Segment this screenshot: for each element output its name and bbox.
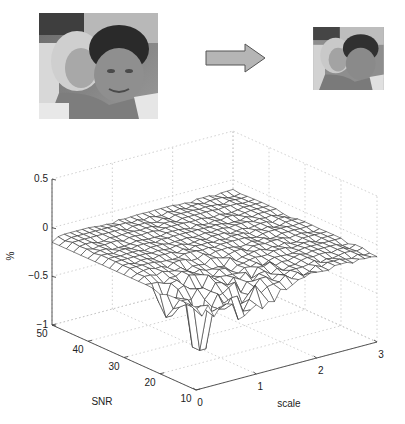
x-tick-label: 0 (197, 397, 203, 408)
x-tick-label: 3 (378, 349, 384, 360)
x-axis-label: scale (277, 398, 301, 409)
z-tick-label: −0.5 (28, 270, 48, 281)
y-tick-label: 20 (144, 377, 156, 388)
x-tick-label: 1 (258, 381, 264, 392)
y-tick-label: 30 (108, 361, 120, 372)
surface-plot: 0.50−0.5−110203040500123 % SNR scale (0, 0, 405, 424)
surface-mesh (52, 189, 377, 350)
y-tick-label: 10 (180, 393, 192, 404)
y-tick-label: 50 (36, 328, 48, 339)
z-tick-label: 0.5 (34, 173, 48, 184)
y-tick-label: 40 (72, 344, 84, 355)
z-axis-label: % (5, 251, 16, 260)
x-tick-label: 2 (318, 365, 324, 376)
z-tick-label: 0 (42, 222, 48, 233)
y-axis-label: SNR (91, 396, 112, 407)
